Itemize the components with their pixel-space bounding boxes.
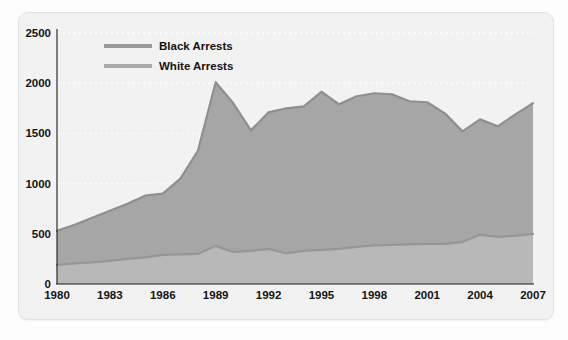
legend-label-white-arrests: White Arrests — [159, 60, 233, 72]
x-tick-label-1995: 1995 — [309, 289, 335, 301]
chart-legend: Black ArrestsWhite Arrests — [104, 40, 233, 72]
y-axis-tick-labels: 05001000150020002500 — [25, 27, 51, 290]
x-tick-label-1989: 1989 — [203, 289, 229, 301]
chart-card: 05001000150020002500 1980198319861989199… — [18, 12, 554, 320]
x-tick-label-2004: 2004 — [467, 289, 493, 301]
screenshot-page: 05001000150020002500 1980198319861989199… — [0, 0, 568, 340]
x-axis-tick-labels: 1980198319861989199219951998200120042007 — [44, 289, 546, 301]
x-tick-label-2001: 2001 — [414, 289, 440, 301]
y-tick-label-2000: 2000 — [25, 77, 51, 89]
y-tick-label-500: 500 — [32, 228, 51, 240]
x-tick-label-1980: 1980 — [44, 289, 70, 301]
y-tick-label-2500: 2500 — [25, 27, 51, 39]
y-tick-label-1000: 1000 — [25, 178, 51, 190]
x-tick-label-1986: 1986 — [150, 289, 176, 301]
arrests-area-chart: 05001000150020002500 1980198319861989199… — [19, 13, 553, 319]
x-tick-label-1983: 1983 — [97, 289, 123, 301]
legend-label-black-arrests: Black Arrests — [159, 40, 233, 52]
x-tick-label-1998: 1998 — [362, 289, 388, 301]
x-tick-label-2007: 2007 — [520, 289, 546, 301]
x-tick-label-1992: 1992 — [256, 289, 282, 301]
y-tick-label-1500: 1500 — [25, 127, 51, 139]
